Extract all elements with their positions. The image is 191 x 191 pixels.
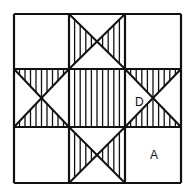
- quilt-block-diagram: DA: [0, 0, 191, 191]
- label-a: A: [150, 148, 158, 162]
- label-d: D: [135, 95, 144, 109]
